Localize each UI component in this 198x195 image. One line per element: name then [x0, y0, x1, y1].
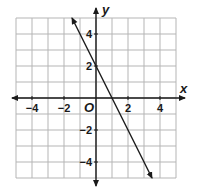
x-tick-label: −2 — [58, 102, 71, 114]
y-axis-label: y — [101, 2, 110, 17]
y-tick-label: −4 — [79, 156, 92, 168]
coordinate-plane: −4−22442−2−4 x y O — [0, 0, 198, 195]
axes — [12, 8, 185, 186]
origin-label: O — [84, 100, 94, 115]
y-tick-label: 2 — [86, 60, 92, 72]
x-axis-label: x — [179, 81, 188, 96]
y-tick-label: −2 — [79, 124, 92, 136]
x-tick-label: −4 — [26, 102, 39, 114]
x-tick-label: 4 — [157, 102, 164, 114]
y-tick-label: 4 — [86, 28, 93, 40]
x-tick-label: 2 — [125, 102, 131, 114]
